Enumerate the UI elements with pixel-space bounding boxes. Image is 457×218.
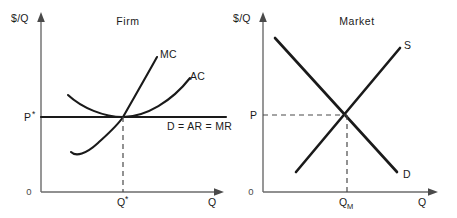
firm-price-label: P * [24,109,36,123]
firm-x-axis-arrow-icon [214,188,224,196]
firm-y-axis-label: $/Q [11,12,29,24]
market-price-label: P [250,109,257,121]
panel-market: Market $/Q Q 0 P Q M S D [233,12,438,211]
svg-text:*: * [32,109,36,119]
market-quantity-label: Q M [339,196,353,211]
firm-panel-title: Firm [116,15,139,27]
market-supply-line [296,48,400,172]
market-demand-curve-label: D [403,168,411,180]
market-panel-title: Market [339,15,375,27]
firm-x-axis-label: Q [208,196,216,208]
firm-ac-curve-label: AC [190,70,205,82]
firm-y-axis-arrow-icon [37,12,45,22]
firm-origin-label: 0 [26,186,31,197]
firm-demand-curve-label: D = AR = MR [167,120,232,132]
market-x-axis-label: Q [418,196,426,208]
market-x-axis-arrow-icon [428,188,438,196]
firm-quantity-label: Q * [117,194,129,208]
svg-text:M: M [347,202,353,211]
economics-figure: Firm $/Q Q 0 P * Q * MC AC D = AR = MR [0,0,457,218]
market-y-axis-arrow-icon [259,12,267,22]
firm-ac-curve [68,78,190,117]
svg-text:*: * [125,194,129,204]
market-demand-line [275,38,397,172]
market-supply-curve-label: S [404,39,411,51]
firm-mc-curve-label: MC [160,48,177,60]
market-origin-label: 0 [248,186,253,197]
market-y-axis-label: $/Q [233,12,251,24]
svg-text:P: P [24,111,31,123]
panel-firm: Firm $/Q Q 0 P * Q * MC AC D = AR = MR [11,12,232,208]
